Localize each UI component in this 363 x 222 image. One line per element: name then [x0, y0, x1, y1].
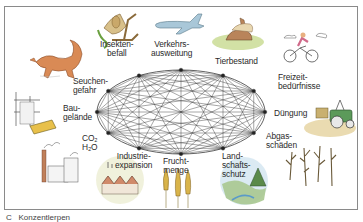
label-duengung: Düngung [274, 109, 307, 118]
network-node [221, 147, 225, 151]
network-node [137, 147, 141, 151]
dead-trees-icon [286, 146, 336, 186]
label-co2-h2o: CO₂ H₂O [82, 134, 98, 152]
label-tierbestand: Tierbestand [215, 57, 258, 66]
network-node [106, 131, 110, 135]
label-insektenbefall: Insekten- befall [100, 40, 134, 58]
construction-site-icon [14, 92, 56, 134]
label-industrieexpansion: Industrie- expansion [115, 152, 152, 170]
network-node [95, 110, 99, 114]
cyclist-icon [284, 33, 327, 63]
label-landschaftsschutz: Land- schafts- schutz [222, 152, 251, 179]
tractor-icon [304, 100, 356, 137]
network-node [252, 89, 256, 93]
network-node [137, 74, 141, 78]
figure-caption: C Konzentlerpen [6, 213, 70, 222]
diagram-artwork [0, 0, 363, 222]
network-node [179, 68, 183, 72]
network-node [263, 110, 267, 114]
interdependency-network [95, 68, 267, 156]
airplane-icon [156, 14, 205, 34]
label-verkehrsausweitung: Verkehrs- ausweitung [151, 40, 192, 58]
label-freizeitbeduerfnisse: Freizeit- bedürfnisse [278, 73, 320, 91]
network-node [221, 74, 225, 78]
network-node [252, 131, 256, 135]
label-baugelaende: Bau- gelände [63, 104, 92, 122]
label-seuchengefahr: Seuchen- gefahr [73, 77, 108, 95]
rabbit-icon [212, 18, 264, 50]
factory-icon [42, 142, 78, 182]
fox-icon [30, 40, 82, 78]
label-abgasschaeden: Abgas- schäden [266, 132, 297, 150]
label-fruchtmenge: Frucht- menge [163, 157, 189, 175]
